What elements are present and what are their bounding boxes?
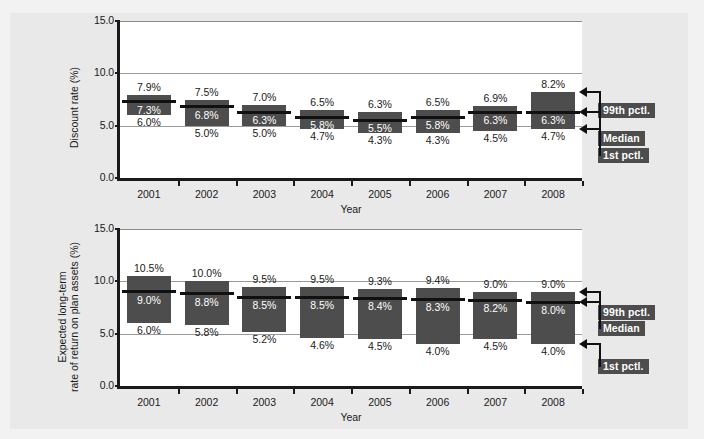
value-label-p1-discount-rate-2002: 5.0% xyxy=(179,127,235,139)
y-axis-title-discount-rate: Discount rate (%) xyxy=(68,66,80,147)
x-tick-label-2002: 2002 xyxy=(182,188,232,200)
y-tick-mark-15.0 xyxy=(115,228,120,230)
value-label-median-discount-rate-2002: 6.8% xyxy=(179,109,235,121)
chart-discount-rate: 0.05.010.015.0Discount rate (%)200120022… xyxy=(10,13,688,221)
chart-expected-return: 0.05.010.015.0Expected long-termrate of … xyxy=(10,221,688,429)
value-label-p1-expected-return-2005: 4.5% xyxy=(352,340,408,352)
value-label-median-expected-return-2002: 8.8% xyxy=(179,296,235,308)
x-tick-label-2006: 2006 xyxy=(413,188,463,200)
value-label-median-expected-return-2005: 8.4% xyxy=(352,300,408,312)
annotation-elbow-0 xyxy=(599,92,601,110)
value-label-p99-discount-rate-2003: 7.0% xyxy=(236,91,292,103)
value-label-median-discount-rate-2005: 5.5% xyxy=(352,122,408,134)
bar-expected-return-2008 xyxy=(531,292,575,344)
y-tick-label-10.0: 10.0 xyxy=(80,274,114,286)
annotation-1st-pctl: 1st pctl. xyxy=(598,359,649,374)
annotation-elbow-1 xyxy=(599,302,601,328)
x-tick-mark-7 xyxy=(524,389,526,394)
y-axis-title-line2: rate of return on plan assets (%) xyxy=(68,242,80,392)
value-label-p99-expected-return-2002: 10.0% xyxy=(179,267,235,279)
y-tick-mark-10.0 xyxy=(115,72,120,74)
x-tick-label-2006: 2006 xyxy=(413,396,463,408)
y-tick-label-15.0: 15.0 xyxy=(80,222,114,234)
annotation-elbow-2 xyxy=(599,344,601,366)
annotation-elbow-2 xyxy=(599,129,601,155)
x-tick-label-2001: 2001 xyxy=(124,188,174,200)
annotation-arrowhead-1 xyxy=(579,297,587,307)
annotation-line-b-2 xyxy=(599,154,601,156)
value-label-p1-discount-rate-2004: 4.7% xyxy=(294,130,350,142)
x-axis-title-discount-rate: Year xyxy=(311,203,391,215)
value-label-p99-discount-rate-2006: 6.5% xyxy=(410,96,466,108)
y-tick-label-0.0: 0.0 xyxy=(80,171,114,183)
value-label-p1-discount-rate-2005: 4.3% xyxy=(352,134,408,146)
y-tick-mark-0.0 xyxy=(115,177,120,179)
y-tick-label-5.0: 5.0 xyxy=(80,327,114,339)
value-label-median-discount-rate-2006: 5.8% xyxy=(410,119,466,131)
value-label-p99-expected-return-2005: 9.3% xyxy=(352,275,408,287)
value-label-p99-expected-return-2006: 9.4% xyxy=(410,274,466,286)
value-label-median-discount-rate-2003: 6.3% xyxy=(236,114,292,126)
x-tick-label-2005: 2005 xyxy=(355,396,405,408)
annotation-99th-pctl: 99th pctl. xyxy=(598,103,655,118)
value-label-p1-expected-return-2006: 4.0% xyxy=(410,345,466,357)
value-label-median-expected-return-2006: 8.3% xyxy=(410,301,466,313)
x-tick-mark-4 xyxy=(351,181,353,186)
x-tick-mark-6 xyxy=(467,389,469,394)
figure-panel: 0.05.010.015.0Discount rate (%)200120022… xyxy=(10,13,688,429)
annotation-arrowhead-2 xyxy=(579,124,587,134)
plot-top-border-expected-return xyxy=(120,229,582,230)
value-label-median-expected-return-2001: 9.0% xyxy=(121,294,177,306)
x-tick-mark-1 xyxy=(178,389,180,394)
value-label-median-expected-return-2003: 8.5% xyxy=(236,299,292,311)
value-label-p99-discount-rate-2004: 6.5% xyxy=(294,96,350,108)
x-tick-mark-6 xyxy=(467,181,469,186)
y-tick-label-15.0: 15.0 xyxy=(80,14,114,26)
value-label-p99-discount-rate-2001: 7.9% xyxy=(121,81,177,93)
y-tick-label-0.0: 0.0 xyxy=(80,379,114,391)
x-tick-mark-2 xyxy=(236,181,238,186)
x-tick-label-2005: 2005 xyxy=(355,188,405,200)
y-axis-title-line1: Expected long-term xyxy=(56,242,68,392)
value-label-p1-discount-rate-2003: 5.0% xyxy=(236,127,292,139)
value-label-p99-expected-return-2001: 10.5% xyxy=(121,262,177,274)
x-tick-mark-8 xyxy=(582,389,584,394)
value-label-p1-discount-rate-2007: 4.5% xyxy=(467,132,523,144)
y-tick-mark-0.0 xyxy=(115,385,120,387)
x-tick-label-2002: 2002 xyxy=(182,396,232,408)
annotation-arrowhead-2 xyxy=(579,339,587,349)
x-tick-mark-2 xyxy=(236,389,238,394)
value-label-median-discount-rate-2007: 6.3% xyxy=(467,114,523,126)
y-tick-mark-5.0 xyxy=(115,125,120,127)
y-tick-label-10.0: 10.0 xyxy=(80,66,114,78)
gridline-y-10 xyxy=(120,73,582,74)
annotation-line-b-2 xyxy=(599,365,601,367)
annotation-median: Median xyxy=(598,131,645,146)
y-tick-mark-15.0 xyxy=(115,20,120,22)
x-axis-title-expected-return: Year xyxy=(311,411,391,423)
x-tick-label-2008: 2008 xyxy=(528,188,578,200)
bar-expected-return-2006 xyxy=(416,288,460,345)
x-tick-mark-4 xyxy=(351,389,353,394)
y-tick-mark-10.0 xyxy=(115,280,120,282)
x-tick-label-2001: 2001 xyxy=(124,396,174,408)
x-tick-label-2003: 2003 xyxy=(239,396,289,408)
value-label-p1-expected-return-2003: 5.2% xyxy=(236,333,292,345)
annotation-1st-pctl: 1st pctl. xyxy=(598,148,649,163)
value-label-p1-expected-return-2002: 5.8% xyxy=(179,326,235,338)
y-tick-label-5.0: 5.0 xyxy=(80,119,114,131)
y-tick-mark-5.0 xyxy=(115,333,120,335)
x-tick-label-2007: 2007 xyxy=(470,188,520,200)
value-label-p1-expected-return-2008: 4.0% xyxy=(525,345,581,357)
value-label-p1-expected-return-2007: 4.5% xyxy=(467,340,523,352)
annotation-arrowhead-0 xyxy=(579,87,587,97)
x-tick-label-2004: 2004 xyxy=(297,396,347,408)
annotation-arrowhead-1 xyxy=(579,107,587,117)
annotation-99th-pctl: 99th pctl. xyxy=(598,305,655,320)
x-tick-mark-8 xyxy=(582,181,584,186)
x-tick-label-2008: 2008 xyxy=(528,396,578,408)
annotation-median: Median xyxy=(598,321,645,336)
value-label-median-expected-return-2007: 8.2% xyxy=(467,302,523,314)
x-tick-label-2003: 2003 xyxy=(239,188,289,200)
value-label-median-expected-return-2008: 8.0% xyxy=(525,304,581,316)
